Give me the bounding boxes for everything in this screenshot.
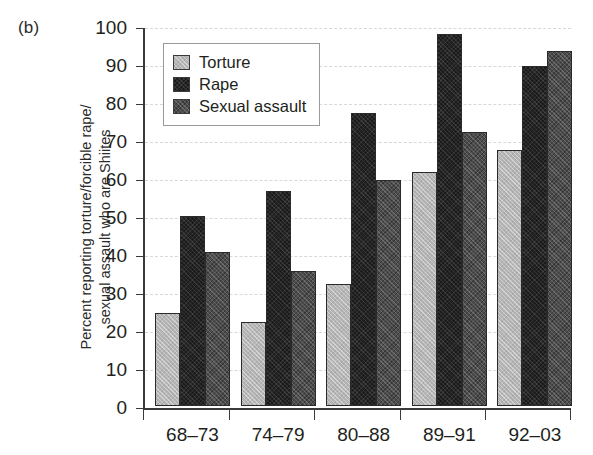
y-axis-tick-label: 30: [106, 283, 127, 305]
legend-label-sexual-assault: Sexual assault: [199, 97, 306, 116]
bar[interactable]: [547, 51, 572, 406]
x-axis-tick-label: 92–03: [480, 424, 590, 446]
bar[interactable]: [462, 132, 487, 406]
bar-group: [497, 26, 572, 406]
y-axis-tick-label: 100: [95, 17, 127, 39]
legend-label-torture: Torture: [199, 53, 250, 72]
legend-item: Rape: [173, 73, 306, 95]
y-axis-tick: 100: [136, 28, 143, 29]
y-axis-tick: 80: [136, 104, 143, 105]
y-axis-tick-label: 40: [106, 245, 127, 267]
x-axis-tick: [400, 409, 401, 420]
legend-item: Torture: [173, 51, 306, 73]
y-axis-tick: 40: [136, 256, 143, 257]
bar-group: [326, 26, 401, 406]
panel-label: (b): [18, 18, 39, 38]
x-axis-tick: [143, 409, 144, 420]
x-axis-tick: [314, 409, 315, 420]
y-axis-tick-label: 10: [106, 359, 127, 381]
x-axis-line: [143, 408, 571, 410]
x-axis-end-tick: [570, 409, 571, 420]
legend-item: Sexual assault: [173, 95, 306, 117]
x-axis-tick: [229, 409, 230, 420]
legend-swatch-rape-icon: [173, 77, 190, 92]
bar[interactable]: [291, 271, 316, 406]
bar[interactable]: [437, 34, 462, 406]
y-axis-tick-label: 0: [116, 397, 127, 419]
y-axis-tick: 20: [136, 332, 143, 333]
bar[interactable]: [205, 252, 230, 406]
y-axis-tick-label: 60: [106, 169, 127, 191]
legend-swatch-torture-icon: [173, 55, 190, 70]
bar[interactable]: [180, 216, 205, 406]
legend: Torture Rape Sexual assault: [163, 43, 320, 126]
y-axis-tick-label: 50: [106, 207, 127, 229]
bar[interactable]: [326, 284, 351, 406]
y-axis-tick: 10: [136, 370, 143, 371]
bar[interactable]: [266, 191, 291, 406]
bar[interactable]: [522, 66, 547, 406]
x-axis-tick: [485, 409, 486, 420]
legend-label-rape: Rape: [199, 75, 238, 94]
y-axis-tick-label: 70: [106, 131, 127, 153]
bar[interactable]: [351, 113, 376, 406]
y-axis-tick: 60: [136, 180, 143, 181]
bar[interactable]: [155, 313, 180, 406]
bar[interactable]: [376, 180, 401, 406]
y-axis-tick-label: 90: [106, 55, 127, 77]
bar[interactable]: [241, 322, 266, 406]
y-axis-tick: 30: [136, 294, 143, 295]
y-axis-tick: 70: [136, 142, 143, 143]
legend-swatch-sexual-assault-icon: [173, 99, 190, 114]
y-axis-tick-label: 80: [106, 93, 127, 115]
y-axis-tick-label: 20: [106, 321, 127, 343]
bar-group: [412, 26, 487, 406]
y-axis-tick: 0: [136, 408, 143, 409]
y-axis-tick: 50: [136, 218, 143, 219]
y-axis-tick: 90: [136, 66, 143, 67]
bar[interactable]: [497, 150, 522, 407]
bar[interactable]: [412, 172, 437, 406]
